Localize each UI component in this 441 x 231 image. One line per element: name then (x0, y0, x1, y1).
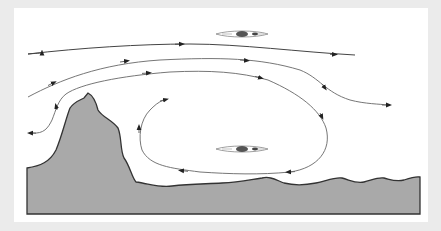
kayak-icon-upstream (216, 31, 268, 37)
kayak-icon-in-eddy (216, 146, 268, 152)
flow-line-second (28, 59, 388, 105)
eddy-flow-diagram (0, 0, 441, 231)
diagram-frame (0, 0, 441, 231)
flow-line-top (28, 44, 355, 55)
terrain-rock-outcrop (27, 93, 420, 214)
